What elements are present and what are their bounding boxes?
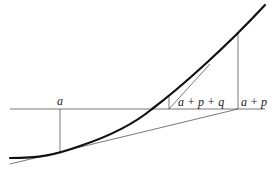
label-a: a [57, 95, 63, 107]
diagram-canvas [0, 0, 275, 172]
convex-curve [10, 5, 265, 158]
label-a-plus-p: a + p [241, 96, 267, 108]
label-a-plus-p-plus-q: a + p + q [178, 96, 224, 108]
